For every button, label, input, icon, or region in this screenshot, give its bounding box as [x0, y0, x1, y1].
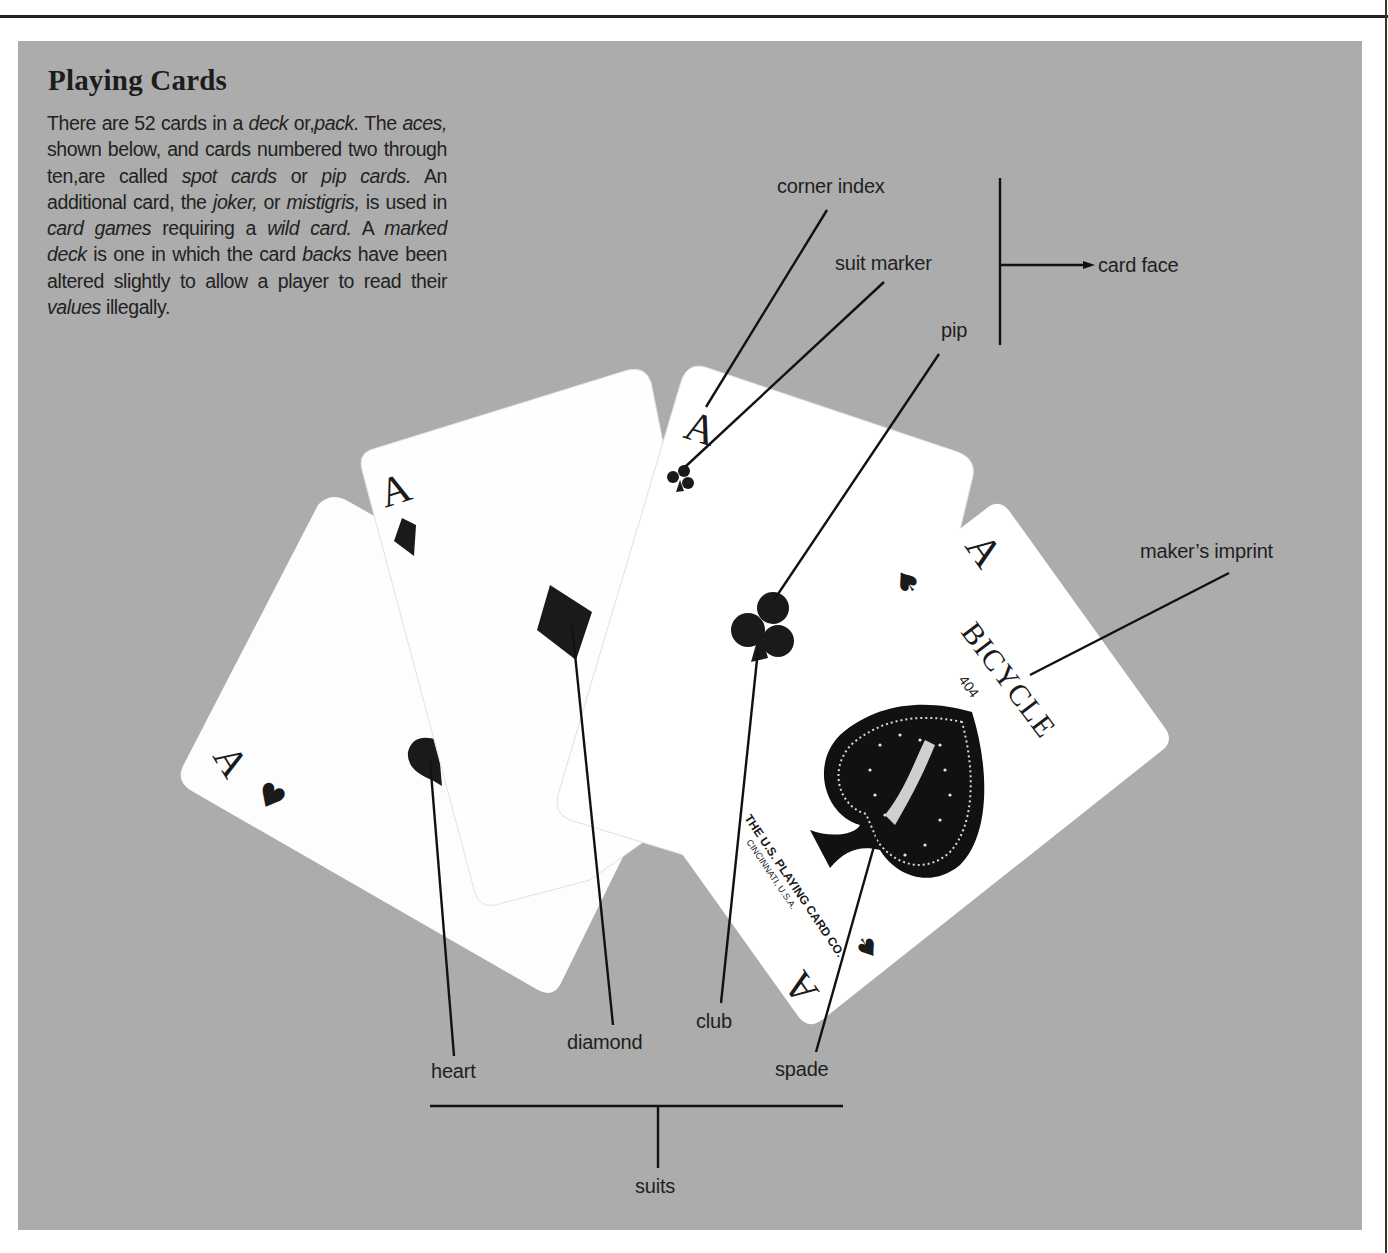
intro-text: is one in which the card [87, 243, 303, 265]
intro-text: There are 52 cards in a [47, 112, 249, 134]
intro-term: deck [249, 112, 289, 134]
label-card-face: card face [1098, 254, 1178, 277]
intro-term: spot cards [182, 165, 277, 187]
intro-text: The [359, 112, 402, 134]
intro-text: A [352, 217, 385, 239]
card-face-arrowhead [1083, 261, 1095, 269]
intro-term: pip cards. [321, 165, 411, 187]
intro-term: values [47, 296, 101, 318]
label-suits: suits [635, 1175, 675, 1198]
intro-term: backs [302, 243, 351, 265]
label-makers-imprint: maker’s imprint [1140, 540, 1273, 563]
intro-term: card games [47, 217, 151, 239]
label-club: club [696, 1010, 732, 1033]
label-suit-marker: suit marker [835, 252, 932, 275]
intro-text: illegally. [101, 296, 170, 318]
intro-text: or, [288, 112, 314, 134]
label-diamond: diamond [567, 1031, 642, 1054]
label-spade: spade [775, 1058, 829, 1081]
intro-text: or [277, 165, 322, 187]
intro-term: mistigris, [287, 191, 360, 213]
label-heart: heart [431, 1060, 476, 1083]
label-pip: pip [941, 319, 967, 342]
cut-off-caption [48, 1246, 55, 1253]
intro-term: joker, [213, 191, 257, 213]
intro-paragraph: There are 52 cards in a deck or,pack. Th… [47, 110, 447, 320]
intro-term: aces, [402, 112, 447, 134]
intro-text: or [257, 191, 286, 213]
intro-term: wild card. [267, 217, 351, 239]
label-corner-index: corner index [777, 175, 885, 198]
intro-term: pack. [314, 112, 359, 134]
intro-text: requiring a [151, 217, 267, 239]
intro-text: is used in [359, 191, 447, 213]
leader-corner-index [706, 210, 827, 407]
page-title: Playing Cards [48, 64, 227, 97]
